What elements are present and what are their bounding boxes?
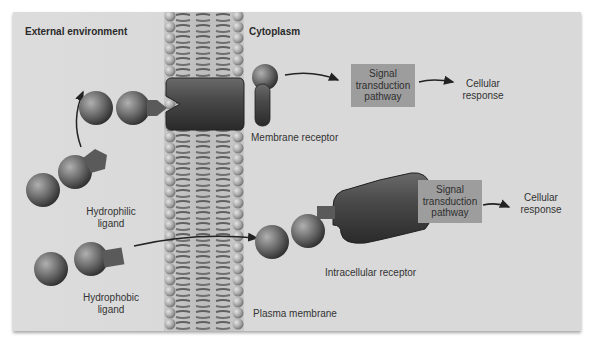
diagram-panel: External environment Cytoplasm Signaltra…: [13, 12, 581, 331]
phospholipid-head: [233, 154, 244, 165]
phospholipid-head: [165, 253, 176, 264]
phospholipid-head: [165, 66, 176, 77]
phospholipid-head: [165, 297, 176, 308]
phospholipid-head: [233, 55, 244, 66]
phospholipid-head: [233, 264, 244, 275]
bottom-signal-transduction-box: Signaltransductionpathway: [418, 180, 482, 223]
phospholipid-head: [233, 242, 244, 253]
external-environment-label: External environment: [25, 26, 127, 38]
diagram-art: [13, 12, 581, 331]
cytoplasm-label: Cytoplasm: [249, 26, 300, 38]
intracellular-receptor-label: Intracellular receptor: [325, 267, 416, 279]
phospholipid-head: [165, 22, 176, 33]
cytoplasm-region: [243, 12, 581, 331]
phospholipid-head: [233, 198, 244, 209]
phospholipid-head: [233, 308, 244, 319]
phospholipid-head: [165, 286, 176, 297]
phospholipid-head: [165, 308, 176, 319]
phospholipid-head: [165, 132, 176, 143]
phospholipid-head: [233, 22, 244, 33]
phospholipid-head: [233, 66, 244, 77]
phospholipid-head: [165, 209, 176, 220]
phospholipid-head: [165, 44, 176, 55]
phospholipid-head: [165, 33, 176, 44]
phospholipid-head: [233, 33, 244, 44]
phospholipid-head: [233, 176, 244, 187]
hydrophilic-ligand-label: Hydrophilicligand: [81, 206, 141, 230]
phospholipid-head: [233, 220, 244, 231]
top-cellular-response: Cellularresponse: [453, 78, 513, 102]
phospholipid-head: [233, 275, 244, 286]
top-signal-transduction-box: Signaltransductionpathway: [351, 64, 415, 107]
phospholipid-head: [233, 286, 244, 297]
phospholipid-head: [233, 132, 244, 143]
membrane-receptor-label: Membrane receptor: [251, 132, 338, 144]
plasma-membrane: [164, 12, 244, 331]
hydrophilic-ligand: [26, 149, 107, 207]
phospholipid-head: [165, 143, 176, 154]
phospholipid-head: [165, 275, 176, 286]
phospholipid-head: [165, 198, 176, 209]
plasma-membrane-label: Plasma membrane: [253, 308, 337, 320]
hydrophobic-ligand: [34, 242, 124, 286]
phospholipid-head: [233, 187, 244, 198]
phospholipid-head: [233, 209, 244, 220]
phospholipid-head: [165, 242, 176, 253]
phospholipid-head: [165, 187, 176, 198]
phospholipid-head: [233, 165, 244, 176]
phospholipid-head: [165, 220, 176, 231]
hydrophobic-ligand-label: Hydrophobicligand: [81, 292, 141, 316]
phospholipid-head: [165, 55, 176, 66]
phospholipid-head: [233, 253, 244, 264]
phospholipid-head: [165, 319, 176, 330]
bottom-cellular-response: Cellularresponse: [511, 192, 571, 216]
phospholipid-head: [165, 176, 176, 187]
bound-hydrophilic-ligand: [79, 91, 167, 125]
phospholipid-head: [165, 165, 176, 176]
phospholipid-head: [233, 297, 244, 308]
phospholipid-head: [233, 143, 244, 154]
phospholipid-head: [233, 319, 244, 330]
phospholipid-head: [233, 44, 244, 55]
phospholipid-head: [165, 264, 176, 275]
phospholipid-head: [165, 154, 176, 165]
